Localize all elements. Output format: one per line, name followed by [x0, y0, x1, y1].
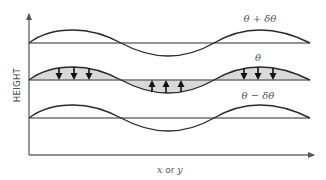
surface-theta-minus-dtheta: θ − δθ — [29, 90, 310, 131]
label-theta-minus-dtheta: θ − δθ — [242, 90, 275, 101]
isentropic-surface-diagram: HEIGHT x or y θ + δθ θ — [0, 0, 326, 180]
surface-theta: θ — [29, 52, 310, 93]
x-axis-label: x or y — [157, 164, 183, 175]
label-theta: θ — [255, 52, 261, 63]
label-theta-plus-dtheta: θ + δθ — [244, 13, 277, 24]
surface-theta-plus-dtheta: θ + δθ — [29, 13, 310, 56]
y-axis-label: HEIGHT — [12, 67, 22, 102]
